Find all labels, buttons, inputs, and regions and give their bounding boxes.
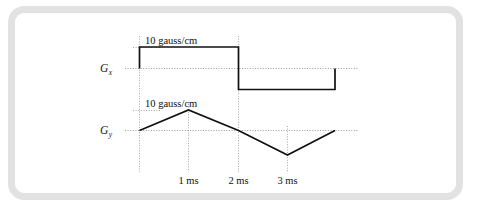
tick-label-1ms: 1 ms [178,175,198,186]
gx-label-base: G [100,62,109,74]
gy-amplitude-label: 10 gauss/cm [145,98,197,109]
gy-waveform [140,110,336,155]
tick-label-2ms: 2 ms [228,175,248,186]
figure-root: Gx 10 gauss/cm Gy 10 gauss/cm 1 ms 2 ms … [0,0,477,213]
gx-amplitude-label: 10 gauss/cm [145,35,197,46]
gradient-waveform-plot: Gx 10 gauss/cm Gy 10 gauss/cm 1 ms 2 ms … [0,0,477,213]
gx-label-subscript: x [108,68,113,77]
gy-label-base: G [100,124,109,136]
tick-label-3ms: 3 ms [277,175,297,186]
gy-axis-label: Gy [100,124,113,139]
gy-label-subscript: y [108,130,113,139]
gx-axis-label: Gx [100,62,113,77]
